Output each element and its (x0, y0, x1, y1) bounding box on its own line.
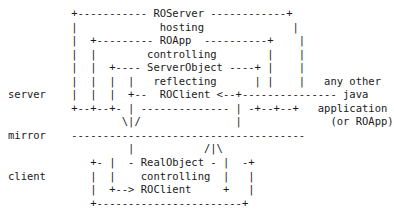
ascii-art-block: +----------- ROServer ------------+ | ho… (8, 7, 359, 210)
